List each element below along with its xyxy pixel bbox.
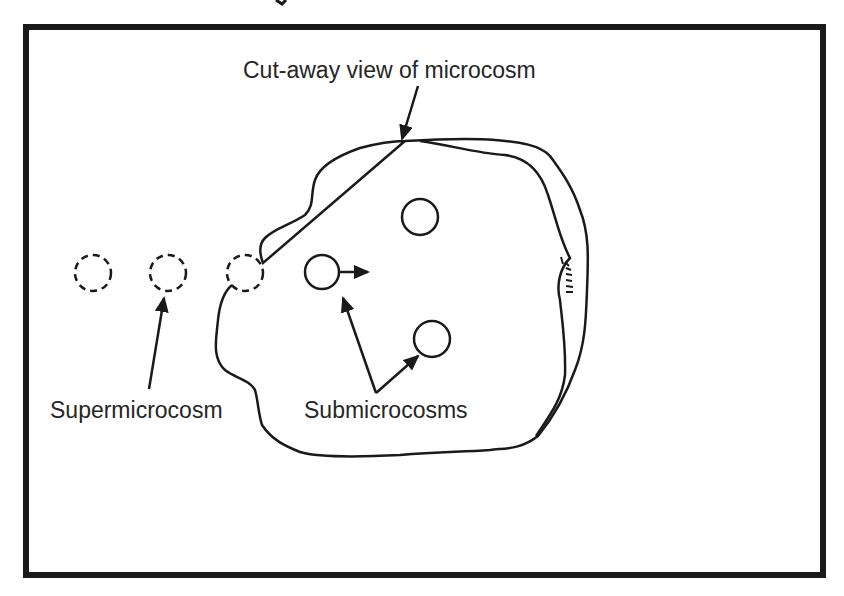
arrow-to-microcosm [402, 86, 418, 139]
diagram-frame [26, 27, 823, 575]
label-submicrocosms: Submicrocosms [304, 397, 468, 423]
supermicrocosm-circle-1 [75, 255, 111, 291]
arrow-to-submicrocosm-left [343, 298, 376, 393]
submicrocosm-circle-moving [305, 255, 339, 289]
label-supermicrocosm: Supermicrocosm [50, 397, 223, 423]
supermicrocosm-circle-2 [150, 255, 186, 291]
arrow-to-submicrocosm-right [376, 356, 418, 393]
label-cut-away-view: Cut-away view of microcosm [243, 57, 536, 83]
cropped-glyph [276, 0, 286, 4]
microcosm-diagram: Cut-away view of microcosm Supermicrocos… [0, 0, 844, 596]
submicrocosm-circle-upper [402, 199, 438, 235]
arrow-to-supermicrocosm [149, 298, 164, 389]
cut-away-fold [420, 141, 570, 436]
submicrocosm-circle-lower [414, 321, 450, 357]
supermicrocosm-circle-3 [227, 255, 263, 291]
